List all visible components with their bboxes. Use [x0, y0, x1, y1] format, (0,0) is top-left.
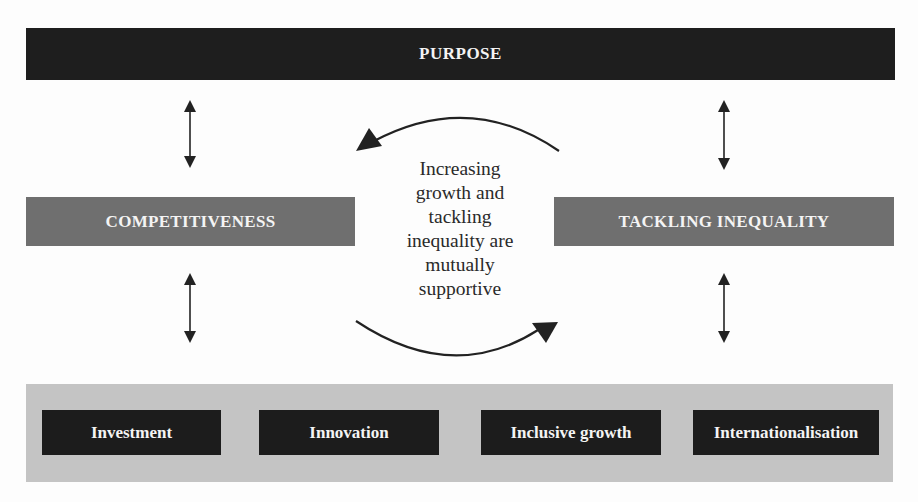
curved-arrow-right-icon [356, 321, 558, 355]
double-arrow-icon [718, 100, 730, 170]
connectors-layer [0, 0, 918, 502]
double-arrow-icon [718, 273, 730, 343]
curved-arrow-left-icon [356, 118, 559, 151]
double-arrow-icon [184, 100, 196, 168]
double-arrow-icon [184, 273, 196, 343]
